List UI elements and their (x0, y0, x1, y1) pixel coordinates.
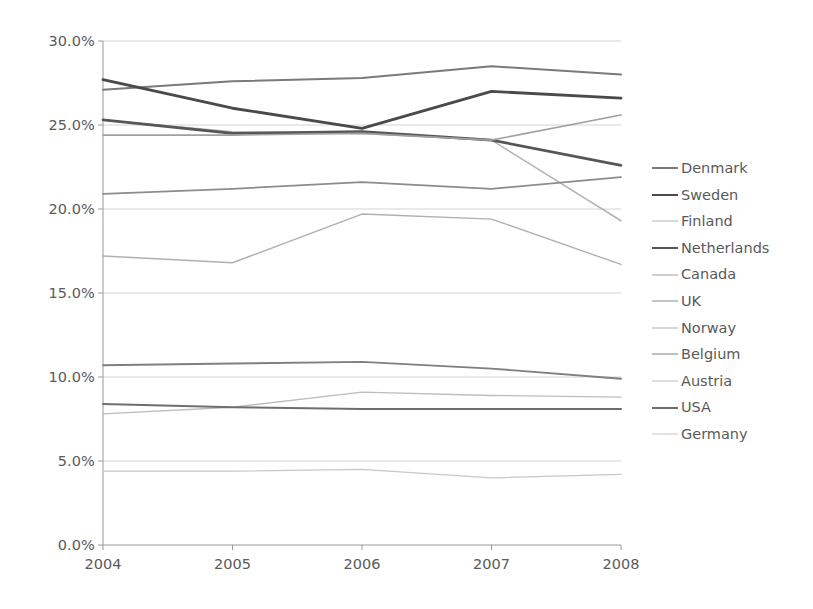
legend-line-swatch-icon (652, 295, 678, 307)
legend-item-norway[interactable]: Norway (652, 315, 810, 342)
gridlines (103, 41, 621, 461)
series-line-belgium (103, 362, 621, 379)
series-line-austria (103, 392, 621, 414)
legend-line-swatch-icon (652, 215, 678, 227)
legend-item-uk[interactable]: UK (652, 288, 810, 315)
y-axis-tick-labels: 0.0%5.0%10.0%15.0%20.0%25.0%30.0% (0, 41, 95, 545)
legend-item-label: Finland (681, 214, 733, 229)
legend-item-label: UK (681, 294, 701, 309)
x-axis-tick-label: 2007 (473, 556, 510, 572)
series-line-norway (103, 214, 621, 264)
legend-item-label: Canada (681, 267, 736, 282)
series-line-netherlands (103, 120, 621, 165)
legend-item-austria[interactable]: Austria (652, 368, 810, 395)
legend-item-label: Germany (681, 427, 748, 442)
x-axis-tick-label: 2005 (214, 556, 251, 572)
legend-line-swatch-icon (652, 322, 678, 334)
x-axis-tick-label: 2004 (85, 556, 122, 572)
legend-line-swatch-icon (652, 428, 678, 440)
legend-line-swatch-icon (652, 348, 678, 360)
y-axis-tick-label: 25.0% (9, 117, 95, 133)
legend-item-usa[interactable]: USA (652, 394, 810, 421)
legend-item-sweden[interactable]: Sweden (652, 182, 810, 209)
legend-line-swatch-icon (652, 269, 678, 281)
legend-item-netherlands[interactable]: Netherlands (652, 235, 810, 262)
y-axis-tick-label: 0.0% (9, 537, 95, 553)
y-axis-tick-label: 30.0% (9, 33, 95, 49)
legend-item-denmark[interactable]: Denmark (652, 155, 810, 182)
legend-line-swatch-icon (652, 375, 678, 387)
legend-item-label: Sweden (681, 188, 738, 203)
series-line-sweden (103, 80, 621, 129)
series-line-denmark (103, 66, 621, 90)
legend-item-label: Austria (681, 374, 732, 389)
axis-ticks (98, 41, 621, 550)
x-axis-tick-labels: 20042005200620072008 (103, 556, 621, 582)
legend-item-label: Denmark (681, 161, 748, 176)
chart-legend: DenmarkSwedenFinlandNetherlandsCanadaUKN… (652, 155, 810, 448)
legend-line-swatch-icon (652, 162, 678, 174)
chart-page: 0.0%5.0%10.0%15.0%20.0%25.0%30.0% 200420… (0, 0, 813, 609)
y-axis-tick-label: 10.0% (9, 369, 95, 385)
series-line-usa (103, 404, 621, 409)
legend-item-canada[interactable]: Canada (652, 261, 810, 288)
y-axis-tick-label: 15.0% (9, 285, 95, 301)
x-axis-tick-label: 2006 (344, 556, 381, 572)
legend-item-finland[interactable]: Finland (652, 208, 810, 235)
legend-item-label: Belgium (681, 347, 740, 362)
legend-item-label: Norway (681, 321, 736, 336)
x-axis-tick-label: 2008 (603, 556, 640, 572)
legend-line-swatch-icon (652, 402, 678, 414)
legend-item-label: Netherlands (681, 241, 769, 256)
y-axis-tick-label: 20.0% (9, 201, 95, 217)
legend-item-belgium[interactable]: Belgium (652, 341, 810, 368)
y-axis-tick-label: 5.0% (9, 453, 95, 469)
legend-line-swatch-icon (652, 242, 678, 254)
series-line-uk (103, 177, 621, 194)
legend-item-germany[interactable]: Germany (652, 421, 810, 448)
series-line-germany (103, 469, 621, 477)
series-lines (103, 66, 621, 478)
legend-line-swatch-icon (652, 189, 678, 201)
legend-item-label: USA (681, 400, 711, 415)
